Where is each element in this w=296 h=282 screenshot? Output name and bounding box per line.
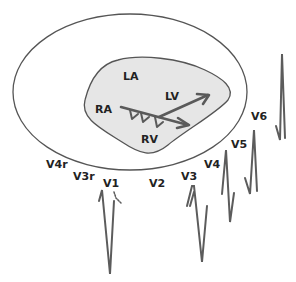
ecg-trace-v3 (187, 186, 207, 262)
diagram-canvas: LA RA LV RV V4r V3r V1 V2 V3 V4 V5 V6 (0, 0, 296, 282)
lead-label-v2: V2 (149, 177, 165, 190)
ecg-trace-v1-dotted (114, 192, 121, 203)
chamber-label-la: LA (123, 70, 139, 83)
ecg-lead-diagram: LA RA LV RV V4r V3r V1 V2 V3 V4 V5 V6 (0, 0, 296, 282)
ecg-trace-v6 (276, 54, 285, 140)
chamber-label-ra: RA (95, 103, 112, 116)
chamber-label-rv: RV (141, 133, 158, 146)
lead-label-v3r: V3r (73, 170, 95, 183)
lead-label-v1: V1 (103, 177, 119, 190)
lead-label-v6: V6 (251, 110, 268, 123)
lead-label-v4: V4 (204, 158, 221, 171)
lead-label-v5: V5 (231, 138, 247, 151)
lead-label-v4r: V4r (46, 158, 68, 171)
lead-label-v3: V3 (181, 170, 197, 183)
chamber-label-lv: LV (165, 90, 179, 103)
ecg-trace-v1 (99, 190, 114, 274)
ecg-trace-v4 (222, 150, 234, 222)
